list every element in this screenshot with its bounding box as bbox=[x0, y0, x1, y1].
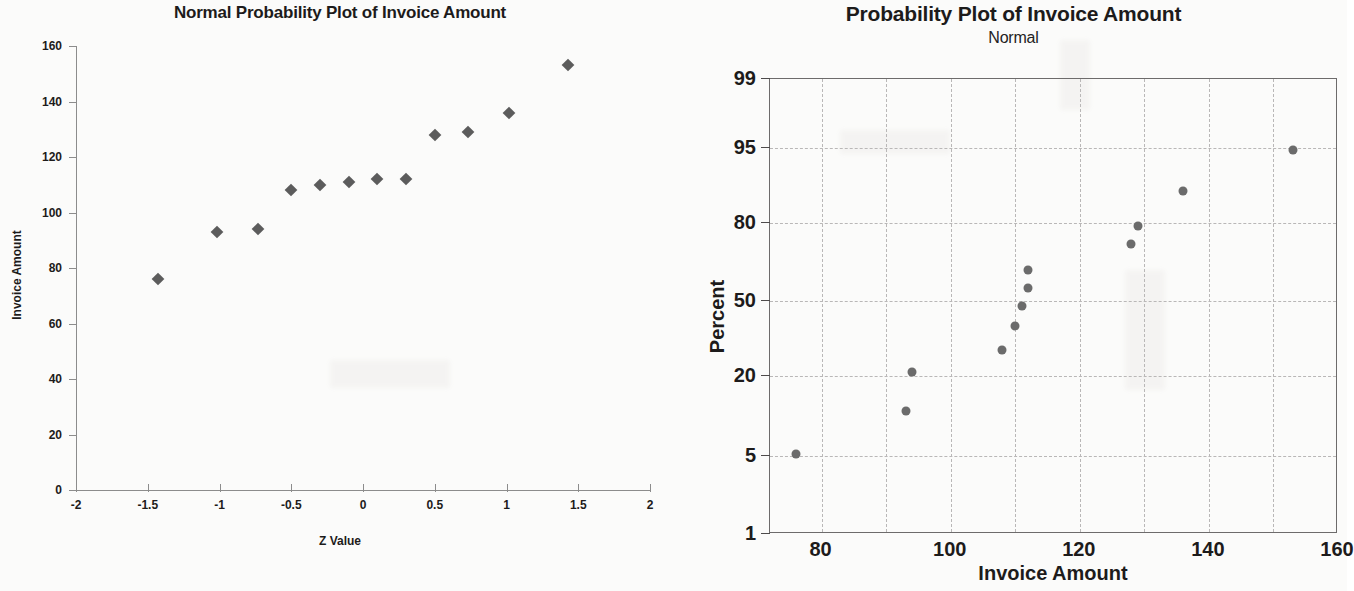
right-y-tick-label: 5 bbox=[680, 444, 756, 467]
right-data-point bbox=[908, 368, 917, 377]
right-chart-title: Probability Plot of Invoice Amount bbox=[680, 2, 1347, 26]
right-x-axis-title: Invoice Amount bbox=[769, 562, 1337, 585]
right-x-tick-label: 80 bbox=[810, 538, 832, 561]
left-data-point bbox=[342, 176, 355, 189]
left-x-tick-label: 0.5 bbox=[395, 498, 475, 512]
right-data-point bbox=[1024, 265, 1033, 274]
right-horizontal-gridline bbox=[770, 301, 1336, 302]
right-vertical-gridline bbox=[1015, 79, 1016, 532]
right-horizontal-gridline bbox=[770, 456, 1336, 457]
left-x-tick-label: 1.5 bbox=[538, 498, 618, 512]
left-y-tick-label: 40 bbox=[0, 372, 62, 386]
left-chart-panel: Normal Probability Plot of Invoice Amoun… bbox=[0, 0, 680, 591]
right-y-tick-label: 20 bbox=[680, 364, 756, 387]
right-data-point bbox=[1017, 302, 1026, 311]
right-y-tick-label: 99 bbox=[680, 67, 756, 90]
left-x-tick-label: 2 bbox=[610, 498, 690, 512]
right-vertical-gridline bbox=[822, 79, 823, 532]
right-y-axis-title: Percent bbox=[706, 267, 729, 367]
left-x-tick-label: -1 bbox=[180, 498, 260, 512]
right-x-tick-label: 140 bbox=[1191, 538, 1224, 561]
right-x-tick-label: 100 bbox=[933, 538, 966, 561]
left-data-point bbox=[252, 223, 265, 236]
right-y-tick bbox=[761, 533, 770, 534]
right-vertical-gridline bbox=[1080, 79, 1081, 532]
left-chart-title: Normal Probability Plot of Invoice Amoun… bbox=[0, 3, 680, 23]
right-vertical-gridline bbox=[886, 79, 887, 532]
right-horizontal-gridline bbox=[770, 223, 1336, 224]
left-data-point bbox=[371, 173, 384, 186]
left-y-tick-label: 100 bbox=[0, 206, 62, 220]
right-data-point bbox=[1133, 221, 1142, 230]
right-y-tick-label: 80 bbox=[680, 211, 756, 234]
left-y-tick-label: 140 bbox=[0, 95, 62, 109]
left-x-tick-label: 1 bbox=[467, 498, 547, 512]
right-data-point bbox=[1288, 146, 1297, 155]
left-x-tick-label: -1.5 bbox=[108, 498, 188, 512]
right-chart-panel: Probability Plot of Invoice Amount Norma… bbox=[680, 0, 1347, 591]
right-horizontal-gridline bbox=[770, 148, 1336, 149]
left-y-tick-label: 120 bbox=[0, 150, 62, 164]
left-data-point bbox=[210, 226, 223, 239]
right-x-tick-label: 160 bbox=[1320, 538, 1353, 561]
left-data-point bbox=[562, 59, 575, 72]
left-data-point bbox=[285, 184, 298, 197]
left-x-tick-label: 0 bbox=[323, 498, 403, 512]
right-data-point bbox=[998, 345, 1007, 354]
left-data-point bbox=[151, 273, 164, 286]
left-y-tick-label: 0 bbox=[0, 483, 62, 497]
left-data-point bbox=[461, 126, 474, 139]
right-vertical-gridline bbox=[1273, 79, 1274, 532]
right-y-tick bbox=[761, 300, 770, 301]
right-y-tick bbox=[761, 147, 770, 148]
left-plot-area bbox=[76, 46, 650, 490]
right-data-point bbox=[1127, 239, 1136, 248]
left-x-tick-label: -2 bbox=[36, 498, 116, 512]
left-y-tick-label: 160 bbox=[0, 39, 62, 53]
right-data-point bbox=[1011, 322, 1020, 331]
left-data-point bbox=[503, 106, 516, 119]
left-x-tick-label: -0.5 bbox=[251, 498, 331, 512]
right-x-tick-label: 120 bbox=[1062, 538, 1095, 561]
right-y-tick bbox=[761, 78, 770, 79]
right-horizontal-gridline bbox=[770, 376, 1336, 377]
left-x-tick bbox=[650, 484, 651, 492]
right-vertical-gridline bbox=[1144, 79, 1145, 532]
left-data-point bbox=[400, 173, 413, 186]
left-y-axis-title: Invoice Amount bbox=[10, 220, 24, 330]
right-chart-subtitle: Normal bbox=[680, 29, 1347, 47]
right-data-point bbox=[1179, 186, 1188, 195]
left-data-point bbox=[314, 178, 327, 191]
right-data-point bbox=[791, 449, 800, 458]
right-y-tick bbox=[761, 375, 770, 376]
right-y-tick-label: 95 bbox=[680, 136, 756, 159]
right-vertical-gridline bbox=[951, 79, 952, 532]
right-data-point bbox=[901, 406, 910, 415]
right-y-tick bbox=[761, 222, 770, 223]
right-y-tick bbox=[761, 455, 770, 456]
right-vertical-gridline bbox=[1209, 79, 1210, 532]
right-plot-area bbox=[769, 78, 1337, 533]
right-y-tick-label: 1 bbox=[680, 522, 756, 545]
right-data-point bbox=[1024, 284, 1033, 293]
left-y-tick-label: 20 bbox=[0, 428, 62, 442]
left-x-axis-title: Z Value bbox=[0, 534, 680, 548]
left-data-point bbox=[428, 128, 441, 141]
